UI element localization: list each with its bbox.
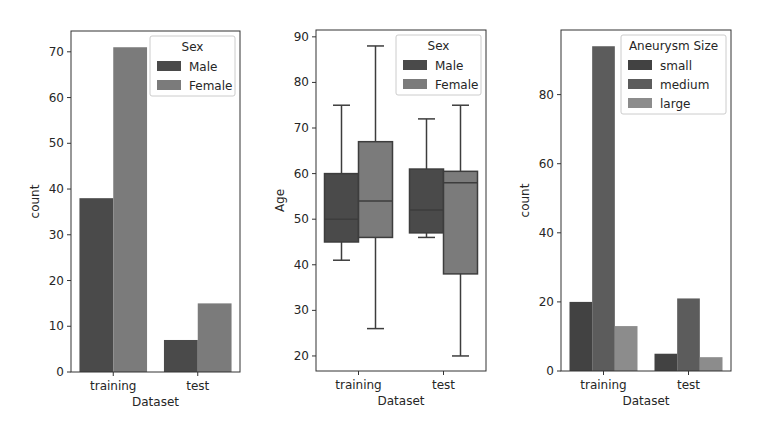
y-tick-label: 0 bbox=[56, 365, 64, 379]
y-tick-label: 30 bbox=[294, 303, 309, 317]
legend-label-small: small bbox=[660, 59, 692, 73]
box-iqr bbox=[359, 142, 393, 238]
legend-label-female: Female bbox=[189, 79, 232, 93]
legend-label-male: Male bbox=[435, 59, 463, 73]
y-tick-label: 20 bbox=[294, 349, 309, 363]
y-tick-label: 40 bbox=[539, 226, 554, 240]
figure-canvas: 010203040506070trainingtestDatasetcountS… bbox=[0, 0, 761, 434]
legend-swatch-female bbox=[403, 79, 427, 89]
x-axis-label: Dataset bbox=[623, 394, 670, 408]
x-tick-label: test bbox=[677, 378, 700, 392]
x-tick-label: training bbox=[335, 378, 382, 392]
x-tick-label: test bbox=[186, 379, 209, 393]
box-iqr bbox=[410, 169, 444, 233]
x-axis-label: Dataset bbox=[132, 395, 179, 409]
y-tick-label: 20 bbox=[539, 295, 554, 309]
y-tick-label: 20 bbox=[49, 274, 64, 288]
y-axis-label: count bbox=[28, 184, 42, 218]
bar-large-training bbox=[615, 326, 638, 371]
y-tick-label: 60 bbox=[49, 91, 64, 105]
bar-small-test bbox=[655, 354, 678, 371]
y-tick-label: 70 bbox=[49, 45, 64, 59]
y-axis-label: count bbox=[518, 183, 532, 217]
y-tick-label: 10 bbox=[49, 319, 64, 333]
legend: SexMaleFemale bbox=[396, 35, 481, 95]
chart-sex-count-bar: 010203040506070trainingtestDatasetcountS… bbox=[28, 31, 240, 409]
y-tick-label: 0 bbox=[546, 364, 554, 378]
legend-label-medium: medium bbox=[660, 78, 709, 92]
legend-swatch-large bbox=[628, 98, 652, 108]
legend-swatch-female bbox=[157, 80, 181, 90]
y-tick-label: 40 bbox=[294, 258, 309, 272]
y-tick-label: 70 bbox=[294, 121, 309, 135]
bar-medium-training bbox=[592, 46, 615, 371]
figure: 010203040506070trainingtestDatasetcountS… bbox=[0, 0, 761, 434]
y-tick-label: 60 bbox=[294, 167, 309, 181]
box-iqr bbox=[325, 174, 359, 242]
x-tick-label: training bbox=[580, 378, 627, 392]
box-iqr bbox=[444, 171, 478, 274]
y-tick-label: 80 bbox=[539, 88, 554, 102]
bar-large-test bbox=[700, 357, 723, 371]
y-tick-label: 50 bbox=[294, 212, 309, 226]
y-tick-label: 90 bbox=[294, 30, 309, 44]
legend-swatch-male bbox=[403, 60, 427, 70]
legend-title: Sex bbox=[182, 40, 204, 54]
legend-swatch-male bbox=[157, 61, 181, 71]
y-tick-label: 30 bbox=[49, 228, 64, 242]
x-axis-label: Dataset bbox=[378, 394, 425, 408]
legend-title: Aneurysm Size bbox=[629, 39, 718, 53]
x-tick-label: test bbox=[432, 378, 455, 392]
legend-swatch-medium bbox=[628, 79, 652, 89]
bar-male-test bbox=[164, 340, 198, 372]
y-axis-label: Age bbox=[273, 189, 287, 212]
y-tick-label: 50 bbox=[49, 136, 64, 150]
legend-label-male: Male bbox=[189, 60, 217, 74]
y-tick-label: 60 bbox=[539, 157, 554, 171]
bar-female-test bbox=[198, 303, 232, 372]
legend: Aneurysm Sizesmallmediumlarge bbox=[621, 35, 726, 114]
legend: SexMaleFemale bbox=[150, 36, 235, 96]
bar-female-training bbox=[113, 47, 147, 372]
y-tick-label: 40 bbox=[49, 182, 64, 196]
bar-male-training bbox=[79, 198, 113, 372]
bar-medium-test bbox=[677, 298, 700, 371]
legend-label-female: Female bbox=[435, 78, 478, 92]
y-tick-label: 80 bbox=[294, 75, 309, 89]
chart-age-boxplot: 2030405060708090trainingtestDatasetAgeSe… bbox=[273, 30, 486, 408]
x-tick-label: training bbox=[90, 379, 137, 393]
legend-swatch-small bbox=[628, 60, 652, 70]
bar-small-training bbox=[570, 302, 593, 371]
chart-aneurysm-size-bar: 020406080trainingtestDatasetcountAneurys… bbox=[518, 30, 731, 408]
legend-label-large: large bbox=[660, 97, 690, 111]
legend-title: Sex bbox=[428, 39, 450, 53]
